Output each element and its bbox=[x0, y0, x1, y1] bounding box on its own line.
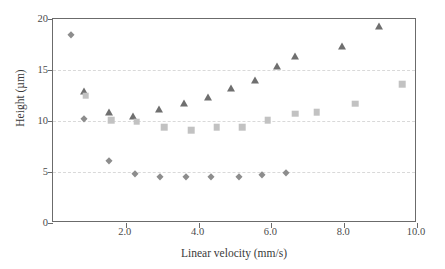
x-tick-label-10: 10.0 bbox=[407, 226, 425, 237]
data-point-square bbox=[108, 117, 115, 124]
data-point-square bbox=[188, 127, 195, 134]
y-tick-label-5: 5 bbox=[43, 166, 48, 177]
data-point-square bbox=[352, 100, 359, 107]
data-point-diamond bbox=[106, 157, 113, 164]
gridline-y-10 bbox=[53, 121, 415, 122]
data-point-triangle bbox=[180, 99, 188, 106]
scatter-chart-figure: 05101520 2.04.06.08.010.0 Linear velocit… bbox=[0, 0, 445, 269]
y-tick-label-20: 20 bbox=[38, 13, 49, 24]
y-tick-5 bbox=[48, 172, 53, 173]
data-point-triangle bbox=[155, 105, 163, 112]
data-point-diamond bbox=[157, 173, 164, 180]
y-tick-15 bbox=[48, 70, 53, 71]
y-tick-label-10: 10 bbox=[38, 115, 49, 126]
data-point-diamond bbox=[208, 173, 215, 180]
data-point-triangle bbox=[338, 42, 346, 49]
data-point-triangle bbox=[204, 93, 212, 100]
x-tick-label-2: 2.0 bbox=[118, 226, 131, 237]
data-point-square bbox=[214, 124, 221, 131]
data-point-triangle bbox=[129, 112, 137, 119]
data-point-diamond bbox=[131, 170, 138, 177]
data-point-triangle bbox=[227, 85, 235, 92]
data-point-triangle bbox=[291, 52, 299, 59]
data-point-square bbox=[239, 124, 246, 131]
data-point-square bbox=[292, 111, 299, 118]
y-tick-10 bbox=[48, 121, 53, 122]
y-tick-20 bbox=[48, 19, 53, 20]
data-point-triangle bbox=[105, 108, 113, 115]
data-point-diamond bbox=[235, 173, 242, 180]
data-point-square bbox=[82, 92, 89, 99]
data-point-triangle bbox=[273, 62, 281, 69]
y-tick-label-15: 15 bbox=[38, 64, 49, 75]
x-axis-tick-labels: 2.04.06.08.010.0 bbox=[52, 226, 416, 242]
x-tick-label-6: 6.0 bbox=[264, 226, 277, 237]
data-point-diamond bbox=[182, 173, 189, 180]
data-point-square bbox=[161, 124, 168, 131]
y-tick-label-0: 0 bbox=[43, 217, 48, 228]
data-point-triangle bbox=[251, 77, 259, 84]
data-point-triangle bbox=[80, 88, 88, 95]
plot-area bbox=[52, 18, 416, 222]
x-axis-title: Linear velocity (mm/s) bbox=[52, 247, 416, 259]
gridline-y-15 bbox=[53, 70, 415, 71]
data-point-square bbox=[399, 81, 406, 88]
y-tick-0 bbox=[48, 223, 53, 224]
data-point-square bbox=[314, 109, 321, 116]
x-tick-label-8: 8.0 bbox=[337, 226, 350, 237]
data-point-diamond bbox=[68, 32, 75, 39]
y-axis-title: Height (µm) bbox=[14, 33, 26, 163]
data-point-triangle bbox=[375, 23, 383, 30]
x-tick-label-4: 4.0 bbox=[191, 226, 204, 237]
data-point-square bbox=[264, 117, 271, 124]
gridline-y-5 bbox=[53, 172, 415, 173]
